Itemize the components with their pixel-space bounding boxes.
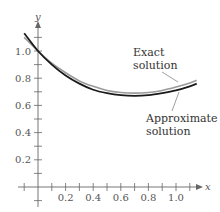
- y-axis-label: y: [34, 11, 41, 22]
- x-tick-label: 0.8: [140, 192, 156, 203]
- x-tick-label: 0.4: [85, 192, 101, 203]
- x-tick-label: 0.2: [58, 192, 74, 203]
- chart: 0.20.40.60.81.00.20.40.60.81.0 x y Exact…: [0, 0, 220, 212]
- y-tick-label: 0.2: [15, 154, 31, 165]
- labels: x y Exact solution Approximate solution: [34, 11, 218, 192]
- y-tick-label: 0.6: [15, 100, 31, 111]
- approximate-solution-leader-line: [172, 92, 179, 111]
- y-tick-label: 1.0: [15, 46, 31, 57]
- x-axis-label: x: [205, 181, 211, 192]
- approximate-solution-label-line2: solution: [146, 125, 191, 138]
- x-tick-label: 0.6: [113, 192, 129, 203]
- x-axis-arrow-icon: [196, 184, 203, 190]
- x-tick-label: 1.0: [168, 192, 184, 203]
- exact-solution-leader-line: [162, 72, 178, 82]
- y-tick-label: 0.4: [15, 127, 31, 138]
- y-axis-arrow-icon: [35, 21, 41, 28]
- y-tick-label: 0.8: [15, 73, 31, 84]
- exact-solution-label-line1: Exact: [133, 46, 165, 59]
- exact-solution-label-line2: solution: [133, 59, 178, 72]
- approximate-solution-label-line1: Approximate: [145, 112, 218, 125]
